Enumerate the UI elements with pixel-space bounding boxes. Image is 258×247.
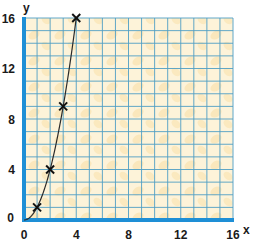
x-tick-label: 4 [73, 228, 80, 242]
y-tick-label: 4 [8, 163, 15, 177]
x-axis-label: x [243, 223, 250, 237]
x-tick-label: 0 [21, 228, 28, 242]
plot-area: 04812160481216 x y [2, 1, 250, 242]
y-tick-label: 16 [2, 12, 16, 26]
y-tick-label: 0 [7, 211, 14, 225]
x-tick-label: 16 [226, 228, 240, 242]
y-tick-label: 8 [8, 113, 15, 127]
y-tick-label: 12 [2, 62, 16, 76]
y-axis-label: y [23, 1, 30, 15]
x-tick-label: 8 [125, 228, 132, 242]
chart: 04812160481216 x y [0, 0, 258, 247]
x-tick-label: 12 [174, 228, 188, 242]
